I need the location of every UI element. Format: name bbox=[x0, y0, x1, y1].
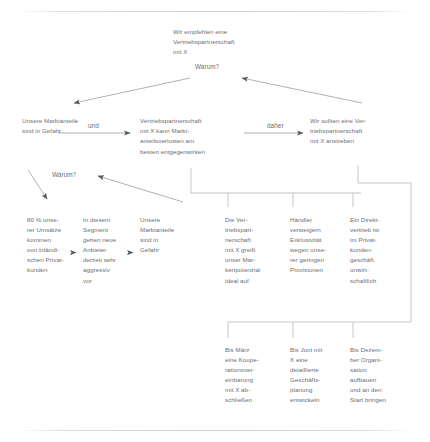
top-recommendation-statement: Wir empfehlen eine Vertriebspartnerschaf… bbox=[173, 27, 293, 58]
evidence-column-5: Ein Direkt- vertrieb ist im Privat- kund… bbox=[350, 215, 400, 286]
connector-label-und: und bbox=[88, 121, 99, 131]
evidence-tree-bracket bbox=[191, 168, 361, 207]
evidence-column-3: Die Ver- triebspart- nerschaft mit X gre… bbox=[225, 215, 275, 286]
action-column-1: Bis Juni mit X eine detaillierte Geschäf… bbox=[290, 345, 344, 406]
label-warum-bottom: Warum? bbox=[52, 170, 76, 180]
diagram-canvas: Wir empfehlen eine Vertriebspartnerschaf… bbox=[0, 0, 430, 442]
evidence-column-1: In diesem Segment gehen neue Anbieter de… bbox=[83, 215, 133, 286]
argument-middle: Vertriebspartnerschaft mit X kann Markt-… bbox=[140, 116, 252, 157]
evidence-column-0: 80 % unse- rer Umsätze kommen von inländ… bbox=[27, 215, 77, 276]
top-divider-rule bbox=[18, 11, 412, 12]
arrow-evidence-to-warum bbox=[98, 176, 183, 202]
argument-right: Wir sollten eine Ver- triebspartnerschaf… bbox=[310, 116, 412, 147]
action-column-2: Bis Dezem- ber Organi- sation aufbauen u… bbox=[350, 345, 404, 406]
arrow-right-argument-to-top bbox=[242, 78, 362, 103]
action-column-0: Bis März eine Koope- rationsver- einbaru… bbox=[225, 345, 279, 406]
argument-left: Unsere Marktanteile sind in Gefahr bbox=[22, 116, 130, 136]
arrow-into-first-evidence bbox=[28, 170, 47, 199]
bottom-divider-rule bbox=[18, 430, 412, 431]
arrow-top-to-left-argument bbox=[74, 78, 190, 103]
connector-label-daher: daher bbox=[267, 121, 284, 131]
evidence-column-2: Unsere Marktanteile sind in Gefahr bbox=[140, 215, 190, 255]
evidence-column-4: Händler verweigern Exklusivität wegen un… bbox=[290, 215, 340, 276]
label-warum-top: Warum? bbox=[195, 62, 219, 72]
